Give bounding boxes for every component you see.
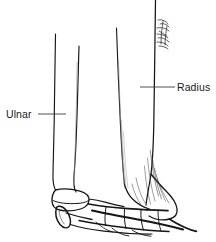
bone-drawing-svg [0,0,216,242]
figure-background [0,0,216,242]
anatomical-figure: Ulnar Radius [0,0,216,242]
label-radius: Radius [177,81,210,93]
label-ulnar: Ulnar [6,108,32,120]
